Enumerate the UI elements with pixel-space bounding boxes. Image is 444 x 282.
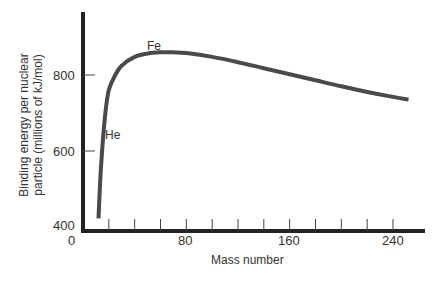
binding-energy-chart: 800 600 400 0 80 160 240 Mass number Bin… (0, 0, 444, 282)
x-tick-label-0: 0 (68, 233, 75, 248)
annotation-he: He (105, 128, 121, 142)
y-tick-label-600: 600 (53, 144, 75, 159)
y-tick-label-400: 400 (53, 218, 75, 233)
x-tick-label-240: 240 (382, 233, 404, 248)
y-axis-title-line1: Binding energy per nuclear (17, 53, 31, 196)
x-tick-label-80: 80 (178, 233, 192, 248)
binding-energy-curve (99, 52, 409, 218)
y-axis-title-line2: particle (millions of kJ/mol) (31, 54, 45, 195)
annotation-fe: Fe (147, 39, 161, 53)
x-tick-label-160: 160 (278, 233, 300, 248)
y-tick-label-800: 800 (53, 68, 75, 83)
x-axis-title: Mass number (211, 253, 284, 267)
